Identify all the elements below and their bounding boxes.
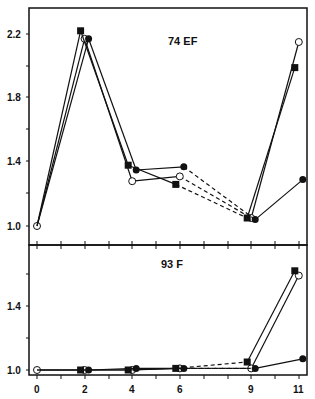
x-label-0: 0 (34, 384, 40, 395)
x-label-4: 4 (129, 384, 135, 395)
open-circle-marker (295, 39, 302, 46)
series-line-segment (247, 271, 295, 362)
filled-circle-marker (180, 365, 187, 372)
filled-square-marker (291, 64, 298, 71)
x-label-2: 2 (82, 384, 88, 395)
series-line-segment (184, 167, 255, 220)
series-line-segment (180, 176, 251, 218)
bottom-panel-title: 93 F (161, 258, 183, 270)
series-line-segment (176, 184, 247, 218)
filled-circle-marker (299, 355, 306, 362)
series-layer (34, 27, 307, 373)
filled-square-marker (244, 359, 251, 366)
series-line-segment (247, 68, 295, 218)
top-y-label-1.0: 1.0 (7, 221, 21, 232)
filled-circle-marker (133, 365, 140, 372)
top-panel-title: 74 EF (168, 35, 198, 47)
chart-figure: 74 EF 93 F 2.2 1.8 1.4 1.0 (0, 0, 315, 399)
series-line-segment (37, 31, 81, 226)
filled-circle-marker (299, 176, 306, 183)
x-label-9: 9 (248, 384, 254, 395)
bottom-y-label-1.4: 1.4 (7, 301, 21, 312)
filled-circle-marker (85, 35, 92, 42)
open-circle-marker (176, 173, 183, 180)
top-y-label-2.2: 2.2 (7, 29, 21, 40)
filled-square-marker (291, 267, 298, 274)
series-line-segment (81, 31, 129, 165)
filled-circle-marker (133, 167, 140, 174)
filled-circle-marker (252, 216, 259, 223)
filled-square-marker (77, 27, 84, 34)
filled-square-marker (125, 367, 132, 374)
top-y-label-1.4: 1.4 (7, 156, 21, 167)
filled-circle-marker (252, 365, 259, 372)
series-line-segment (255, 180, 303, 220)
filled-square-marker (125, 162, 132, 169)
filled-circle-marker (85, 367, 92, 374)
x-label-6: 6 (177, 384, 183, 395)
open-circle-marker (129, 178, 136, 185)
series-line-segment (132, 176, 180, 181)
series-line-segment (136, 167, 184, 170)
filled-circle-marker (180, 163, 187, 170)
filled-square-marker (172, 181, 179, 188)
bottom-y-label-1.0: 1.0 (7, 365, 21, 376)
series-line-segment (251, 276, 299, 369)
series-line-segment (255, 359, 303, 369)
series-line-segment (89, 39, 137, 170)
filled-square-marker (244, 215, 251, 222)
top-y-label-1.8: 1.8 (7, 92, 21, 103)
series-line-segment (37, 39, 89, 226)
x-label-11: 11 (293, 384, 304, 395)
